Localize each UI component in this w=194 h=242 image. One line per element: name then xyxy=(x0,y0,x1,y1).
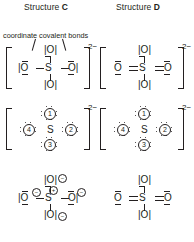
dot xyxy=(46,106,47,107)
bond-s-oleft-a xyxy=(129,196,138,197)
dot xyxy=(150,115,151,116)
dot xyxy=(41,146,42,147)
lone-pair-left-under xyxy=(115,74,121,75)
oxygen-left: |O xyxy=(18,63,28,73)
dot xyxy=(135,115,136,116)
bond-s-oleft xyxy=(36,198,44,199)
lone-pair-left-under xyxy=(115,204,121,205)
dot xyxy=(62,127,63,128)
sulfur-center: S xyxy=(139,193,146,203)
oxygen-bottom: |O| xyxy=(44,80,57,90)
dot xyxy=(135,146,136,147)
dot xyxy=(46,137,47,138)
lone-pair-left-over xyxy=(22,61,28,62)
formal-charge-oxygen-top: − xyxy=(58,174,67,183)
coordinate-covalent-bonds-label: coordinate covalent bonds xyxy=(3,31,88,40)
lone-pair-right-over xyxy=(164,61,170,62)
bracket-left xyxy=(100,108,106,150)
bond-s-oright-b xyxy=(155,70,164,71)
dot xyxy=(56,142,57,143)
oxygen-top: |O| xyxy=(138,45,151,55)
dot xyxy=(56,115,57,116)
dot xyxy=(62,131,63,132)
column-title-d: Structure D xyxy=(116,2,160,12)
dot xyxy=(156,127,157,128)
dot xyxy=(140,137,141,138)
formal-charge-oxygen-right: − xyxy=(77,188,86,197)
bond-s-oright xyxy=(61,198,69,199)
oxygen-bottom: |O| xyxy=(44,210,57,220)
formal-charge-oxygen-left: − xyxy=(32,188,41,197)
lone-pair-right-under xyxy=(164,74,170,75)
dot xyxy=(129,131,130,132)
dot xyxy=(129,127,130,128)
dot xyxy=(171,131,172,132)
lone-pair-right-over xyxy=(164,191,170,192)
formal-charge-sulfur: + xyxy=(49,186,58,195)
column-title-d-letter: D xyxy=(154,2,160,12)
oxygen-bottom: |O| xyxy=(138,80,151,90)
dot xyxy=(35,127,36,128)
bracket-right xyxy=(84,47,90,89)
oxygen-right: O| xyxy=(68,63,78,73)
bracket-left xyxy=(6,47,12,89)
oxygen-top: |O| xyxy=(44,45,57,55)
oxygen-left: O xyxy=(114,193,122,203)
charge-label: 2− xyxy=(88,103,97,112)
dot xyxy=(77,127,78,128)
oxygen-bottom: |O| xyxy=(138,210,151,220)
dot xyxy=(135,142,136,143)
lone-pair-right-under xyxy=(164,204,170,205)
oxygen-right: O xyxy=(164,63,172,73)
charge-label: 2− xyxy=(182,42,191,51)
oxygen-top: |O| xyxy=(138,175,151,185)
sulfur-center: S xyxy=(45,63,52,73)
structure-c-row2: 2− 1 S 4 2 3 xyxy=(6,106,92,152)
dot xyxy=(150,142,151,143)
dot xyxy=(41,115,42,116)
dot xyxy=(20,127,21,128)
dot xyxy=(150,146,151,147)
column-title-d-prefix: Structure xyxy=(116,2,154,12)
bond-s-oright-a xyxy=(155,196,164,197)
dot xyxy=(171,127,172,128)
dot xyxy=(35,131,36,132)
sulfur-center: S xyxy=(47,125,54,135)
bracket-right xyxy=(178,47,184,89)
dot xyxy=(56,146,57,147)
structure-d-row3: |O| S O O |O| xyxy=(100,175,186,221)
dot xyxy=(140,106,141,107)
dot xyxy=(25,122,26,123)
bracket-right xyxy=(178,108,184,150)
lone-pair-right-over xyxy=(68,191,74,192)
dot xyxy=(114,131,115,132)
lone-pair-left-under xyxy=(22,204,28,205)
dot xyxy=(150,111,151,112)
dot xyxy=(41,111,42,112)
dot xyxy=(114,127,115,128)
lone-pair-left-over xyxy=(115,191,121,192)
dot xyxy=(135,111,136,112)
structure-c-row3: |O| − S + |O − O| − |O| − xyxy=(6,175,92,221)
lone-pair-left-over xyxy=(115,61,121,62)
column-title-c-letter: C xyxy=(62,2,68,12)
structure-d-row1: 2− |O| S O O |O| xyxy=(100,45,186,91)
lone-pair-left-over xyxy=(22,191,28,192)
dot xyxy=(161,122,162,123)
structure-c-row1: 2− |O| S |O O| |O| xyxy=(6,45,92,91)
bracket-right xyxy=(84,108,90,150)
lone-pair-left-under xyxy=(22,74,28,75)
dot xyxy=(41,142,42,143)
dot xyxy=(67,122,68,123)
column-title-c-prefix: Structure xyxy=(24,2,62,12)
charge-label: 2− xyxy=(182,103,191,112)
bracket-left xyxy=(100,47,106,89)
bond-s-oleft-b xyxy=(129,200,138,201)
lone-pair-right-over xyxy=(68,61,74,62)
bond-s-oright-a xyxy=(155,66,164,67)
figure-canvas: Structure C Structure D coordinate coval… xyxy=(0,0,194,242)
dot xyxy=(119,122,120,123)
sulfur-center: S xyxy=(139,63,146,73)
formal-charge-oxygen-bottom: − xyxy=(58,212,67,221)
lone-pair-right-under xyxy=(68,74,74,75)
